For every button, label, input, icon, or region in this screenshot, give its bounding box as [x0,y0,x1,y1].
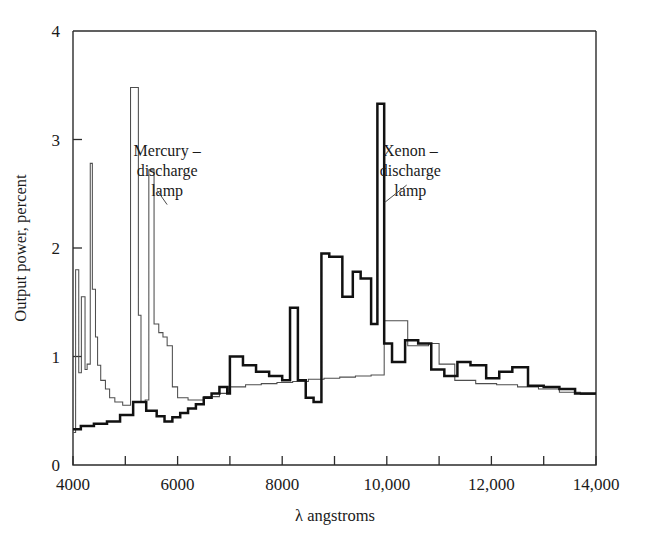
y-label-1: 1 [52,348,61,367]
data-series-layer [73,87,596,432]
y-label-2: 2 [52,239,61,258]
series-mercury [73,87,596,432]
xenon-label-line-1: Xenon – [383,142,439,159]
xenon-label-line-2: discharge [380,162,441,180]
plot-border [73,31,596,465]
x-label-8000: 8000 [265,475,299,494]
spectral-output-chart: 40006000800010,00012,00014,000 01234 Mer… [0,0,651,544]
annotation-layer: Mercury –dischargelampXenon –dischargela… [134,142,441,205]
xenon-label: Xenon –dischargelamp [380,142,441,203]
x-label-4000: 4000 [56,475,90,494]
x-axis-title: λ angstroms [295,506,375,525]
plot-frame [73,31,596,465]
y-label-4: 4 [52,22,61,41]
x-label-10,000: 10,000 [363,475,410,494]
mercury-label: Mercury –dischargelamp [134,142,202,205]
y-axis-title: Output power, percent [11,174,30,322]
y-label-0: 0 [52,456,61,475]
mercury-label-line-1: Mercury – [134,142,202,160]
y-tick-labels: 01234 [52,22,61,475]
x-label-12,000: 12,000 [468,475,515,494]
x-label-6000: 6000 [161,475,195,494]
x-tick-labels: 40006000800010,00012,00014,000 [56,475,619,494]
mercury-label-line-3: lamp [151,182,183,200]
mercury-label-line-2: discharge [137,162,198,180]
y-label-3: 3 [52,131,61,150]
chart-canvas: 40006000800010,00012,00014,000 01234 Mer… [0,0,651,544]
x-label-14,000: 14,000 [573,475,620,494]
